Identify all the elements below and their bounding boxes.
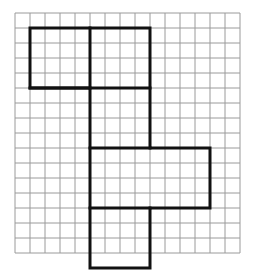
grid-lines-group <box>15 13 240 253</box>
figure-canvas: Grid with thick polygon outline A square… <box>0 0 257 271</box>
grid-figure-svg <box>0 0 257 271</box>
